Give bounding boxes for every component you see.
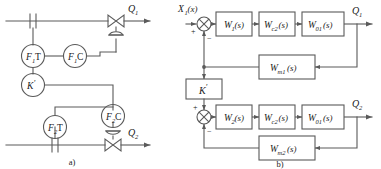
sign-plus-top: + xyxy=(191,27,196,36)
label-q2-panel-b: Q 2 xyxy=(352,98,363,111)
label-f1t-main: F xyxy=(25,52,32,62)
caption-panel-a: a) xyxy=(69,157,76,167)
label-kprime-bubble: K ′ xyxy=(26,79,36,91)
label-f1t-tail: T xyxy=(35,52,41,62)
label-q2b-sub: 2 xyxy=(359,104,363,111)
label-block-kprime-tail: ′ xyxy=(206,83,208,92)
control-valve-bottom-icon xyxy=(105,131,121,151)
junction-dot-top xyxy=(202,65,206,69)
label-wm1-arg: (s) xyxy=(287,63,297,73)
summing-junction-top[interactable] xyxy=(197,17,211,31)
label-w01-bottom-arg: (s) xyxy=(323,113,333,123)
sign-minus-top: − xyxy=(207,34,212,43)
label-q1-panel-a: Q 1 xyxy=(128,3,138,16)
label-w01-top-sub: 01 xyxy=(316,25,323,32)
label-f1c-main: F xyxy=(67,52,74,62)
label-wc2-top-arg: (s) xyxy=(279,20,289,30)
label-f2t: F 2 T xyxy=(47,123,63,135)
label-f2t-main: F xyxy=(47,123,54,133)
label-w01-bottom-sub: 01 xyxy=(316,118,323,125)
label-kprime-main: K xyxy=(26,81,34,91)
label-wc2-bottom-arg: (s) xyxy=(279,113,289,123)
label-w01-top-arg: (s) xyxy=(323,20,333,30)
label-wm1-sub: m1 xyxy=(278,68,286,75)
label-kprime-tail: ′ xyxy=(34,79,36,88)
label-w2-arg: (s) xyxy=(235,113,245,123)
summing-junction-bottom[interactable] xyxy=(197,110,211,124)
label-f1c: F 1 C xyxy=(67,52,83,64)
label-x1-arg: (x) xyxy=(188,4,198,14)
label-q2a-sub: 2 xyxy=(135,133,139,140)
signal-kprime-to-f2c xyxy=(45,85,113,110)
control-valve-top-icon xyxy=(108,15,124,52)
label-wc2-top-sub: c2 xyxy=(272,25,279,32)
caption-panel-b: b) xyxy=(276,159,283,169)
label-wm2-arg: (s) xyxy=(287,144,297,154)
label-wc2-bottom-sub: c2 xyxy=(272,118,279,125)
label-q2-panel-a: Q 2 xyxy=(128,127,139,140)
label-q1a-sub: 1 xyxy=(135,9,138,16)
label-f2t-tail: T xyxy=(57,123,63,133)
label-q1b-sub: 1 xyxy=(359,11,362,18)
label-f1c-tail: C xyxy=(77,52,83,62)
label-f2c: F 2 C xyxy=(105,112,121,124)
label-q1-panel-b: Q 1 xyxy=(352,5,362,18)
signal-f1c-to-valve-top xyxy=(87,52,116,56)
sign-plus-bottom: + xyxy=(193,103,198,112)
figure-svg: F 1 T F 1 C K ′ F 2 T F 2 C Q 1 Q xyxy=(0,0,381,169)
label-wm2-sub: m2 xyxy=(278,149,287,156)
label-input-x1: X 1 (x) xyxy=(177,4,198,16)
label-w1-arg: (s) xyxy=(235,20,245,30)
label-f2c-tail: C xyxy=(115,112,121,122)
label-f2c-main: F xyxy=(105,112,112,122)
panel-b-group xyxy=(186,12,372,160)
label-f1t: F 1 T xyxy=(25,52,41,64)
figure-root: F 1 T F 1 C K ′ F 2 T F 2 C Q 1 Q xyxy=(0,0,381,169)
instrument-bubble-f1t[interactable] xyxy=(22,45,45,68)
sign-minus-bottom: − xyxy=(207,127,212,136)
